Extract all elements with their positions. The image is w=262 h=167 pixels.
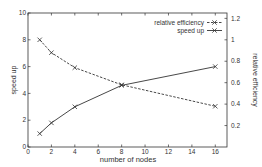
legend-label-relative-efficiency: relative efficiency xyxy=(154,19,204,27)
y-tick-label: 10 xyxy=(19,9,27,16)
series-layer xyxy=(38,38,218,136)
x-tick-label: 12 xyxy=(165,148,173,155)
y-tick-label: 4 xyxy=(22,90,26,97)
y-tick-label: 0 xyxy=(22,143,26,150)
x-tick-label: 0 xyxy=(26,148,30,155)
y2-tick-label: 1 xyxy=(231,36,235,43)
x-axis-label: number of nodes xyxy=(100,155,157,164)
chart: 024681012141602468100.20.40.60.811.2 rel… xyxy=(0,0,262,167)
y2-tick-label: 0.2 xyxy=(231,122,240,129)
axis-ticks: 024681012141602468100.20.40.60.811.2 xyxy=(19,9,241,155)
y2-tick-label: 1.2 xyxy=(231,15,240,22)
x-tick-label: 10 xyxy=(141,148,149,155)
series-speed-up xyxy=(38,64,218,135)
x-tick-label: 6 xyxy=(96,148,100,155)
y2-tick-label: 0.6 xyxy=(231,79,240,86)
y-tick-label: 2 xyxy=(22,116,26,123)
y2-tick-label: 0.8 xyxy=(231,57,240,64)
x-tick-label: 16 xyxy=(212,148,220,155)
y2-axis-label: relative efficiency xyxy=(251,53,259,107)
y-tick-label: 8 xyxy=(22,36,26,43)
x-tick-label: 4 xyxy=(73,148,77,155)
x-tick-label: 8 xyxy=(120,148,124,155)
x-tick-label: 14 xyxy=(188,148,196,155)
series-relative-efficiency xyxy=(38,38,218,109)
legend: relative efficiency speed up xyxy=(154,19,222,35)
y2-tick-label: 0.4 xyxy=(231,100,240,107)
y-tick-label: 6 xyxy=(22,63,26,70)
legend-label-speed-up: speed up xyxy=(177,27,204,35)
x-tick-label: 2 xyxy=(50,148,54,155)
y-axis-label: speed up xyxy=(10,65,18,94)
